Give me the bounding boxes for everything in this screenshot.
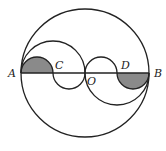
shaded-region-left: [21, 57, 53, 73]
diagram-figure: [0, 0, 166, 151]
semicircle-OD-upper: [85, 57, 117, 73]
label-D: D: [121, 60, 130, 71]
geometry-diagram: A C O D B: [0, 0, 166, 151]
shaded-region-right: [117, 73, 149, 89]
label-B: B: [154, 68, 162, 79]
label-O: O: [87, 76, 96, 87]
semicircle-CO-lower: [53, 73, 85, 89]
label-C: C: [55, 60, 63, 71]
label-A: A: [8, 68, 16, 79]
